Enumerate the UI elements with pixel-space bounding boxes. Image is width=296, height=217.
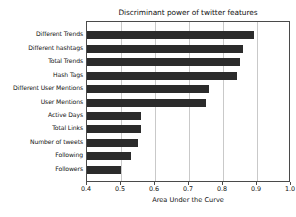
bar	[87, 31, 254, 39]
x-tick-label: 0.8	[210, 185, 234, 193]
bar-fill	[87, 72, 237, 80]
x-tick-label: 0.4	[74, 185, 98, 193]
chart-figure: Discriminant power of twitter features D…	[0, 0, 296, 217]
bar	[87, 125, 141, 133]
bar	[87, 58, 240, 66]
bar-fill	[87, 85, 209, 93]
y-axis-tick-label: Following	[0, 151, 83, 159]
bar-fill	[87, 99, 206, 107]
y-axis-tick-label: User Mentions	[0, 98, 83, 106]
x-axis-ticks: 0.40.50.60.70.80.91.0	[0, 182, 296, 196]
bar-fill	[87, 139, 138, 147]
bar-fill	[87, 166, 121, 174]
bar-fill	[87, 31, 254, 39]
x-tick-label: 0.5	[108, 185, 132, 193]
plot-area	[86, 21, 290, 182]
bar-fill	[87, 125, 141, 133]
bar	[87, 139, 138, 147]
chart-title: Discriminant power of twitter features	[86, 8, 290, 17]
bar	[87, 85, 209, 93]
bar-fill	[87, 58, 240, 66]
bar-series	[87, 22, 289, 181]
bar-fill	[87, 45, 243, 53]
x-tick-label: 1.0	[278, 185, 296, 193]
y-axis-labels: Different TrendsDifferent hashtagsTotal …	[0, 21, 83, 182]
y-axis-tick-label: Different User Mentions	[0, 84, 83, 92]
x-axis-title: Area Under the Curve	[86, 196, 290, 204]
bar	[87, 152, 131, 160]
x-tick-label: 0.6	[142, 185, 166, 193]
bar	[87, 166, 121, 174]
x-tick-label: 0.7	[176, 185, 200, 193]
y-axis-tick-label: Different Trends	[0, 30, 83, 38]
bar-fill	[87, 112, 141, 120]
y-axis-tick-label: Total Links	[0, 124, 83, 132]
bar	[87, 112, 141, 120]
y-axis-tick-label: Number of tweets	[0, 138, 83, 146]
x-tick-label: 0.9	[244, 185, 268, 193]
y-axis-tick-label: Followers	[0, 165, 83, 173]
bar	[87, 45, 243, 53]
y-axis-tick-label: Different hashtags	[0, 44, 83, 52]
bar	[87, 72, 237, 80]
bar	[87, 99, 206, 107]
y-axis-tick-label: Active Days	[0, 111, 83, 119]
bar-fill	[87, 152, 131, 160]
y-axis-tick-label: Hash Tags	[0, 71, 83, 79]
y-axis-tick-label: Total Trends	[0, 57, 83, 65]
